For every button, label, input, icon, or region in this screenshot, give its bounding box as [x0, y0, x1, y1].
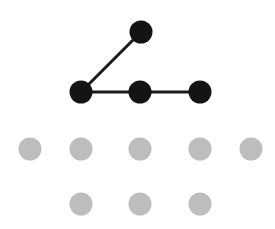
graph-diagram: [0, 0, 275, 229]
active-node: [130, 21, 153, 44]
inactive-node: [240, 138, 263, 161]
active-node: [70, 81, 93, 104]
inactive-node: [70, 193, 93, 216]
inactive-node-layer: [19, 138, 263, 216]
inactive-node: [129, 193, 152, 216]
graph-canvas: [0, 0, 275, 229]
inactive-node: [189, 193, 212, 216]
inactive-node: [189, 138, 212, 161]
inactive-node: [19, 138, 42, 161]
inactive-node: [129, 138, 152, 161]
inactive-node: [70, 138, 93, 161]
active-node-layer: [70, 21, 212, 104]
active-node: [129, 81, 152, 104]
active-node: [189, 81, 212, 104]
edge: [81, 32, 141, 92]
